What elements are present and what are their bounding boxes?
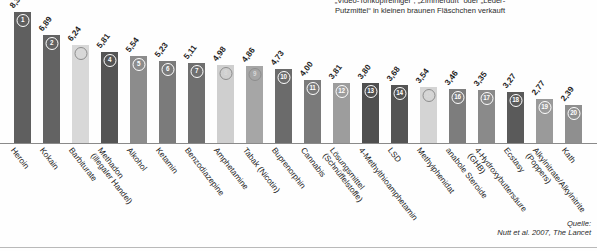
bar-rank-badge: 20: [567, 107, 580, 120]
bar-value-label: 3,68: [385, 65, 402, 83]
bar-slot: 153,54: [420, 12, 437, 143]
bar-slot: 18,32: [14, 12, 31, 143]
bar-slot: 104,73: [275, 12, 292, 143]
bar-slot: 65,23: [159, 12, 176, 143]
bar: [43, 35, 60, 143]
bar-rank-badge: 13: [364, 85, 377, 98]
bar-rank-badge: 19: [538, 101, 551, 114]
bar-rank-badge: 10: [277, 71, 290, 84]
bottom-rule: [0, 247, 597, 248]
bar-slot: 26,89: [43, 12, 60, 143]
bar-value-label: 3,46: [443, 69, 460, 87]
bar-slot: 202,39: [565, 12, 582, 143]
bar-slot: 163,46: [449, 12, 466, 143]
bar-value-label: 2,77: [530, 79, 547, 97]
category-label: Alkylnitrate/Alkylnitrite (Poppers): [523, 146, 587, 220]
bar-rank-badge: 7: [190, 65, 203, 78]
bar-slot: 45,81: [101, 12, 118, 143]
bar-rank-badge: 16: [451, 91, 464, 104]
category-label: Heroin: [9, 146, 31, 171]
bar-rank-badge: 15: [422, 89, 435, 102]
baseline-axis: [0, 143, 597, 144]
bar-value-label: 3,35: [472, 70, 489, 88]
category-label: Kath: [560, 146, 578, 165]
bar-value-label: 3,80: [356, 63, 373, 81]
bar-slot: 192,77: [536, 12, 553, 143]
bar-slot: 94,86: [246, 12, 263, 143]
bar-value-label: 6,89: [37, 15, 54, 33]
bar: [14, 12, 31, 143]
bar-value-label: 4,98: [211, 45, 228, 63]
bar-rank-badge: 1: [16, 14, 29, 27]
bar-value-label: 5,54: [124, 36, 141, 54]
category-label: Cannabis: [299, 146, 328, 179]
bar-value-label: 2,39: [559, 85, 576, 103]
category-label: Ketamin: [154, 146, 180, 175]
bar-slot: 75,11: [188, 12, 205, 143]
bar-slot: 173,35: [478, 12, 495, 143]
bar-rank-badge: 12: [335, 85, 348, 98]
bar-rank-badge: 18: [509, 94, 522, 107]
bar-slot: 143,68: [391, 12, 408, 143]
bar-rank-badge: 11: [306, 82, 319, 95]
bar-value-label: 5,81: [95, 32, 112, 50]
bar-rank-badge: 9: [248, 68, 261, 81]
source-attribution: Quelle: Nutt et al. 2007, The Lancet: [497, 219, 591, 237]
bar-slot: 183,27: [507, 12, 524, 143]
bar-rank-badge: 2: [45, 37, 58, 50]
category-label: LSD: [386, 146, 403, 164]
bar-value-label: 3,54: [414, 67, 431, 85]
bar-value-label: 3,27: [501, 72, 518, 90]
plot-area: 18,3226,8936,2445,8155,5465,2375,1184,98…: [8, 12, 588, 143]
bar-rank-badge: 4: [103, 54, 116, 67]
bar-value-label: 5,11: [182, 43, 199, 61]
drug-harm-bar-chart-figure: „Video-Tonkopfreiniger“, „Zimmerduft“ od…: [0, 0, 597, 251]
bar-slot: 114,00: [304, 12, 321, 143]
bar-value-label: 5,23: [153, 41, 170, 59]
bar-value-label: 4,86: [240, 46, 257, 64]
bar-slot: 123,81: [333, 12, 350, 143]
bar-value-label: 6,24: [66, 25, 83, 43]
bar-value-label: 3,81: [327, 63, 344, 81]
bar-rank-badge: 3: [74, 47, 87, 60]
bar-rank-badge: 14: [393, 87, 406, 100]
bar-rank-badge: 8: [219, 67, 232, 80]
category-label: Ecstasy: [502, 146, 527, 174]
bar-rank-badge: 5: [132, 58, 145, 71]
category-label: Alkohol: [125, 146, 149, 173]
bar-value-label: 4,73: [269, 49, 286, 67]
bar-rank-badge: 17: [480, 92, 493, 105]
bar-slot: 84,98: [217, 12, 234, 143]
bar-value-label: 8,32: [8, 0, 25, 10]
bar-slot: 36,24: [72, 12, 89, 143]
bar-slot: 133,80: [362, 12, 379, 143]
category-label: Kokain: [38, 146, 61, 172]
bar-rank-badge: 6: [161, 63, 174, 76]
bar-value-label: 4,00: [298, 60, 315, 78]
category-label: 4-Methylthioamphetamin: [357, 146, 420, 222]
bar-slot: 55,54: [130, 12, 147, 143]
